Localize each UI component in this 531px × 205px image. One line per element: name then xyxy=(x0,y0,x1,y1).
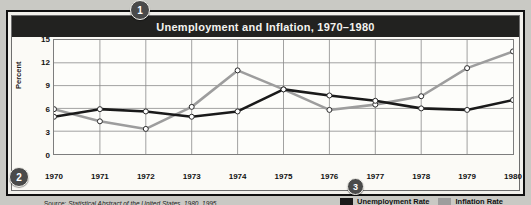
x-axis-tick-label: 1970 xyxy=(45,172,63,181)
legend-label: Inflation Rate xyxy=(455,197,503,205)
data-point-marker xyxy=(419,106,424,111)
source-title: Statistical Abstract of the United State… xyxy=(68,200,216,205)
figure-inner: Unemployment and Inflation, 1970–1980 Pe… xyxy=(11,15,520,191)
data-point-marker xyxy=(327,107,332,112)
x-axis-tick-label: 1978 xyxy=(412,172,430,181)
data-point-marker xyxy=(97,107,102,112)
data-point-marker xyxy=(189,104,194,109)
y-axis-tick-label: 3 xyxy=(46,127,50,136)
data-point-marker xyxy=(465,107,470,112)
line-chart xyxy=(54,40,513,154)
data-point-marker xyxy=(511,49,514,54)
x-axis-tick-label: 1980 xyxy=(504,172,522,181)
data-point-marker xyxy=(143,109,148,114)
y-axis-ticks: 03691215 xyxy=(26,37,50,171)
y-axis-tick-label: 9 xyxy=(46,81,50,90)
x-axis-tick-label: 1977 xyxy=(366,172,384,181)
y-axis-tick-label: 15 xyxy=(41,35,50,44)
data-point-marker xyxy=(419,94,424,99)
plot-area: Percent 03691215 xyxy=(12,37,519,171)
x-axis-tick-label: 1974 xyxy=(229,172,247,181)
x-axis-tick-label: 1975 xyxy=(275,172,293,181)
data-point-marker xyxy=(511,98,514,103)
legend-swatch-icon xyxy=(340,198,353,205)
x-axis-tick-label: 1973 xyxy=(183,172,201,181)
legend-swatch-icon xyxy=(438,198,451,205)
source-note: Source: Statistical Abstract of the Unit… xyxy=(44,200,216,205)
x-axis-tick-label: 1971 xyxy=(91,172,109,181)
chart-title-bar: Unemployment and Inflation, 1970–1980 xyxy=(12,16,519,37)
figure-root: Unemployment and Inflation, 1970–1980 Pe… xyxy=(0,0,531,205)
x-axis-tick-label: 1976 xyxy=(320,172,338,181)
data-point-marker xyxy=(235,109,240,114)
x-axis-tick-label: 1979 xyxy=(458,172,476,181)
callout-marker-1: 1 xyxy=(130,0,150,20)
x-axis-tick-label: 1972 xyxy=(137,172,155,181)
data-point-marker xyxy=(189,114,194,119)
legend-label: Unemployment Rate xyxy=(357,197,430,205)
data-point-marker xyxy=(281,87,286,92)
x-axis-ticks: 1970197119721973197419751976197719781979… xyxy=(12,172,531,184)
plot-box xyxy=(53,39,514,155)
callout-marker-3: 3 xyxy=(347,178,364,195)
data-point-marker xyxy=(143,126,148,131)
data-point-marker xyxy=(54,114,57,119)
y-axis-tick-label: 0 xyxy=(46,151,50,160)
data-point-marker xyxy=(327,93,332,98)
data-point-marker xyxy=(235,68,240,73)
chart-legend: Unemployment RateInflation Rate xyxy=(340,197,503,205)
legend-item: Inflation Rate xyxy=(438,197,503,205)
data-point-marker xyxy=(97,119,102,124)
data-point-marker xyxy=(54,107,57,112)
legend-item: Unemployment Rate xyxy=(340,197,430,205)
y-axis-label: Percent xyxy=(14,61,23,89)
data-point-marker xyxy=(465,66,470,71)
figure-frame: Unemployment and Inflation, 1970–1980 Pe… xyxy=(6,10,525,196)
callout-marker-2: 2 xyxy=(9,167,29,187)
y-axis-tick-label: 12 xyxy=(41,58,50,67)
page-title: Unemployment and Inflation, 1970–1980 xyxy=(156,21,374,33)
source-prefix: Source: xyxy=(44,200,68,205)
data-point-marker xyxy=(373,98,378,103)
y-axis-tick-label: 6 xyxy=(46,104,50,113)
